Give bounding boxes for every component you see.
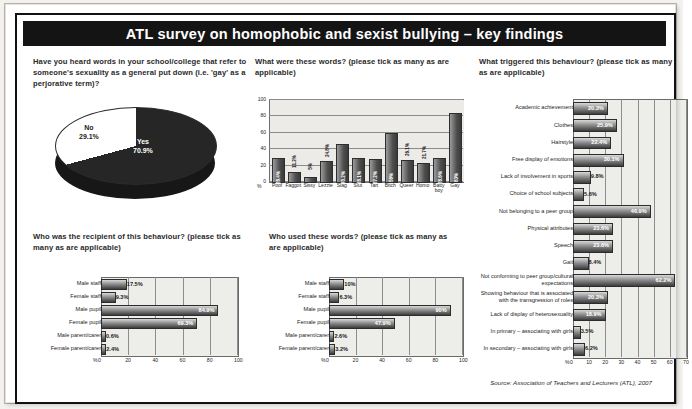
pie-slice-label-yes: Yes 70.9%: [133, 137, 153, 155]
hbar-value-label: 47.9%: [375, 320, 391, 326]
vbar-bar: 11.2%: [288, 172, 301, 183]
hbar-category-label: Female pupil: [35, 316, 104, 329]
question-1-text: Have you heard words in your school/coll…: [33, 56, 248, 89]
hbar-gridline: [356, 277, 357, 355]
vbar-value-label: 28.6%: [437, 171, 442, 184]
hbar-x-tick: 60: [667, 359, 673, 365]
vbar-axis-unit: %: [257, 183, 261, 189]
vbar-category-label: Slut: [348, 183, 368, 188]
hbar-value-label: 2.6%: [334, 333, 347, 339]
vbar-bar: 24.8%: [320, 161, 333, 183]
hbar-category-label: Showing behaviour that is associated wit…: [477, 288, 576, 305]
hbar-value-label: 84.9%: [199, 307, 215, 313]
vbar-category-label: Queer: [396, 183, 416, 188]
hbar-x-tick: 50: [651, 359, 657, 365]
hbar-category-label: In secondary – associating with girls: [477, 340, 576, 357]
pie-no-value: 29.1%: [79, 132, 99, 141]
question-3-text: What triggered this behaviour? (please t…: [479, 56, 679, 78]
hbar-bar: [329, 331, 334, 341]
hbar-category-label: Female staff: [265, 290, 332, 303]
vbar-gridline: [269, 148, 463, 149]
hbar-gridline: [155, 277, 156, 355]
vbar-bar: 5%: [304, 177, 317, 183]
hbar-bar: [573, 343, 585, 356]
vbar-category-label: Batty boy: [429, 183, 449, 194]
source-note: Source: Association of Teachers and Lect…: [490, 379, 652, 386]
hbar-bar: [329, 344, 335, 354]
page-title-bar: ATL survey on homophobic and sexist bull…: [23, 21, 666, 46]
hbar-value-label: 10%: [344, 281, 355, 287]
hbar-bar: [573, 257, 589, 270]
vbar-category-label: Gay: [445, 183, 465, 188]
hbar-gridline: [237, 277, 238, 355]
scanned-sheet: ATL survey on homophobic and sexist bull…: [4, 3, 677, 404]
vbar-y-tick: 100: [255, 96, 266, 102]
hbar-category-label: Male parent/carer: [265, 329, 332, 342]
hbar-x-tick: 100: [234, 357, 243, 363]
hbar-bar: [573, 188, 584, 201]
hbar-x-tick: 70: [683, 359, 689, 365]
hbar-value-label: 23.6%: [593, 225, 609, 231]
hbar-category-label: Choice of school subjects: [477, 185, 576, 202]
hbar-value-label: 23.6%: [593, 242, 609, 248]
hbar-bar: [573, 291, 608, 304]
hbar-bar: [101, 305, 218, 315]
vbar-bar: 26.1%: [401, 160, 414, 183]
vbar-bar: 83%: [449, 113, 462, 183]
vbar-category-label: Slag: [332, 183, 352, 188]
hbar-value-label: 30.1%: [604, 156, 620, 162]
vbar-value-label: 24.8%: [324, 144, 329, 157]
hbar-gridline: [462, 277, 463, 355]
hbar-bar: [329, 318, 395, 328]
hbar-x-tick: 30: [618, 359, 624, 365]
vbar-gridline: [269, 181, 463, 182]
hbar-category-label: Female pupil: [265, 316, 332, 329]
hbar-bar: [573, 274, 675, 287]
hbar-x-tick: 100: [459, 357, 468, 363]
hbar-value-label: 6.3%: [339, 294, 352, 300]
hbar-value-label: 46.9%: [631, 208, 647, 214]
hbar-gridline: [409, 277, 410, 355]
hbar-bar: [573, 137, 611, 150]
hbar-x-tick: 0: [98, 357, 101, 363]
hbar-x-tick: 60: [406, 357, 412, 363]
hbar-category-label: Female staff: [35, 290, 104, 303]
hbar-bar: [329, 305, 451, 315]
hbar-category-label: Gait: [477, 254, 576, 271]
hbar-x-tick: 20: [125, 357, 131, 363]
question-2-text: What were these words? (please tick as m…: [255, 56, 460, 78]
hbar-x-tick: 20: [353, 357, 359, 363]
vbar-value-label: 83%: [453, 173, 458, 182]
hbar-category-label: Hairstyle: [477, 133, 576, 150]
vbar-bar: 28.6%: [433, 158, 446, 183]
hbar-bar: [101, 331, 106, 341]
hbar-axis-unit: %: [321, 357, 326, 363]
chart-heard-words-pie: No 29.1% Yes 70.9%: [47, 101, 227, 209]
hbar-axis-unit: %: [93, 357, 98, 363]
hbar-value-label: 8.4%: [589, 259, 602, 265]
hbar-value-label: 18.9%: [586, 311, 602, 317]
vbar-bar: 58%: [385, 133, 398, 183]
hbar-plot-area: [573, 99, 688, 359]
hbar-x-tick: 80: [207, 357, 213, 363]
vbar-bar: 28.4%: [272, 158, 285, 183]
hbar-value-label: 22.4%: [591, 139, 607, 145]
vbar-y-tick: 80: [255, 112, 266, 118]
vbar-bar: 21.7%: [417, 163, 430, 183]
vbar-gridline: [269, 132, 463, 133]
vbar-category-label: Poof: [267, 183, 287, 188]
vbar-category-label: Tart: [364, 183, 384, 188]
hbar-bar: [573, 119, 617, 132]
vbar-category-label: Bitch: [380, 183, 400, 188]
hbar-axis-unit: %: [565, 359, 570, 365]
vbar-gridline: [269, 165, 463, 166]
hbar-x-tick: 10: [586, 359, 592, 365]
hbar-value-label: 2.4%: [106, 346, 119, 352]
hbar-bar: [101, 344, 106, 354]
hbar-category-label: Free display of emotions: [477, 151, 576, 168]
pie-slice-label-no: No 29.1%: [79, 123, 99, 141]
hbar-bar: [573, 205, 651, 218]
hbar-x-tick: 60: [180, 357, 186, 363]
hbar-value-label: 25.9%: [597, 122, 613, 128]
page-title: ATL survey on homophobic and sexist bull…: [126, 26, 563, 42]
